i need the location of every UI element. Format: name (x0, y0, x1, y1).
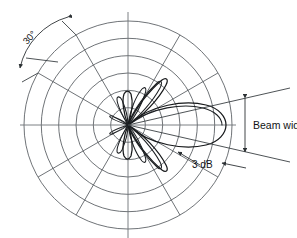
three-db-label: 3 dB (192, 159, 213, 170)
angle-callout-30deg: 30° (20, 17, 76, 82)
polar-plot-svg: 30° Beam width 3 dB (0, 0, 297, 238)
angle-callout-guide-120 (62, 21, 76, 35)
antenna-radiation-pattern-figure: 30° Beam width 3 dB (0, 0, 297, 238)
three-db-incoming-arrow (222, 163, 246, 168)
three-db-callout: 3 dB (178, 152, 246, 170)
angle-label-30deg: 30° (20, 28, 38, 46)
beamwidth-label: Beam width (253, 119, 297, 131)
angle-callout-guide-outer-a (26, 58, 58, 62)
